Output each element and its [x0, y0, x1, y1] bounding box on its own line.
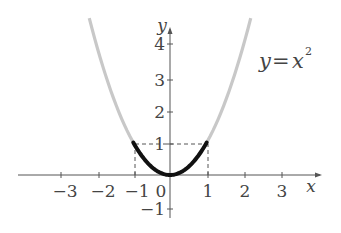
- equation-var: x: [292, 49, 304, 73]
- equation-lhs: y: [258, 49, 272, 73]
- x-tick-label-3: 3: [277, 181, 288, 201]
- equation-label: y = x 2: [258, 45, 312, 73]
- y-axis-arrow-icon: [168, 27, 173, 34]
- x-tick-label-m2: −2: [90, 181, 115, 201]
- y-axis-label: y: [156, 15, 167, 35]
- equation-exponent: 2: [305, 45, 312, 58]
- y-tick-label-2: 2: [154, 102, 165, 122]
- equation-equals: =: [272, 49, 290, 73]
- parabola-graph: −3 −2 −1 0 1 2 3 x 4 3 2 1 −1 y y = x 2: [0, 0, 341, 233]
- x-axis-label: x: [306, 176, 316, 196]
- y-tick-label-4: 4: [154, 34, 165, 54]
- y-tick-label-3: 3: [154, 70, 165, 90]
- x-tick-label-2: 2: [240, 181, 251, 201]
- x-tick-label-1: 1: [203, 181, 214, 201]
- x-tick-label-m1: −1: [124, 181, 149, 201]
- y-tick-label-m1: −1: [140, 199, 165, 219]
- x-tick-label-m3: −3: [52, 181, 77, 201]
- x-axis-arrow-icon: [315, 173, 322, 178]
- y-tick-label-1: 1: [154, 134, 165, 154]
- origin-label: 0: [156, 181, 167, 201]
